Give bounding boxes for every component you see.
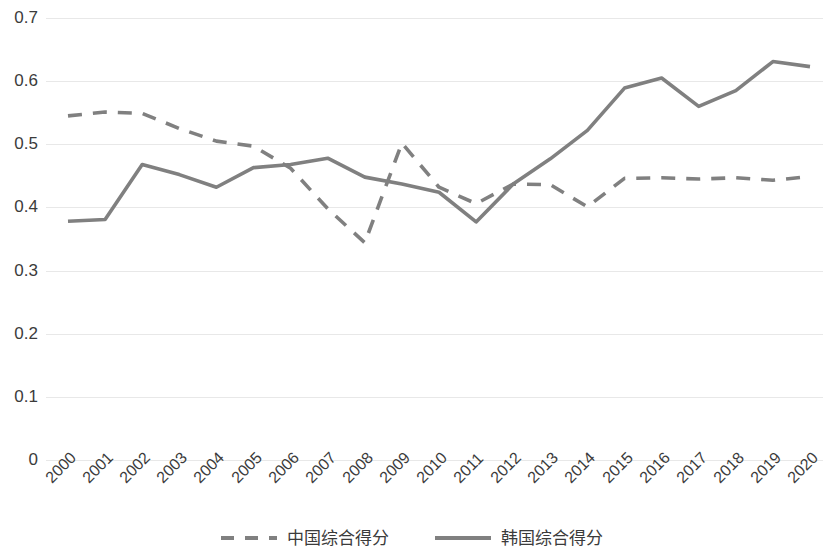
y-axis-tick-label: 0.5	[14, 134, 38, 154]
series-line-korea	[68, 62, 810, 222]
solid-line-icon	[435, 535, 491, 539]
dashed-line-icon	[221, 535, 277, 539]
legend-label-korea: 韩国综合得分	[501, 524, 603, 549]
line-chart: 0.70.60.50.40.30.20.10 20002001200220032…	[0, 0, 823, 557]
y-axis-labels: 0.70.60.50.40.30.20.10	[0, 0, 46, 470]
chart-legend: 中国综合得分 韩国综合得分	[0, 524, 823, 549]
legend-item-korea[interactable]: 韩国综合得分	[435, 524, 603, 549]
y-axis-tick-label: 0.7	[14, 8, 38, 28]
legend-label-china: 中国综合得分	[287, 524, 389, 549]
y-axis-tick-label: 0.6	[14, 71, 38, 91]
y-axis-tick-label: 0.1	[14, 387, 38, 407]
x-axis-labels: 2000200120022003200420052006200720082009…	[46, 470, 823, 530]
y-axis-tick-label: 0.4	[14, 197, 38, 217]
y-axis-tick-label: 0.2	[14, 324, 38, 344]
y-axis-tick-label: 0.3	[14, 261, 38, 281]
series-line-china	[68, 112, 810, 243]
legend-item-china[interactable]: 中国综合得分	[221, 524, 389, 549]
y-axis-tick-label: 0	[29, 450, 38, 470]
plot-area	[46, 0, 823, 470]
series-lines	[46, 0, 823, 470]
